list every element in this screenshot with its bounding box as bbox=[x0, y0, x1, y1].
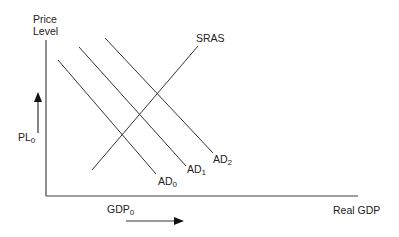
price-up-arrow-icon bbox=[34, 92, 42, 133]
gdp-marker: GDP0 bbox=[107, 203, 134, 215]
price-level-marker: PL0 bbox=[18, 131, 35, 143]
sras-label: SRAS bbox=[196, 32, 225, 44]
ad1-label: AD1 bbox=[187, 163, 206, 175]
ad0-label: AD0 bbox=[158, 175, 177, 187]
ad2-label: AD2 bbox=[213, 153, 232, 165]
gdp-right-arrow-icon bbox=[126, 217, 184, 225]
y-axis-label: Price Level bbox=[33, 13, 58, 37]
sras-curve bbox=[92, 46, 198, 170]
x-axis-label: Real GDP bbox=[333, 204, 380, 216]
